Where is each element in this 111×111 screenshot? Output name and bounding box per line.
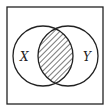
set-y-label: Y xyxy=(83,50,92,64)
set-x-label: X xyxy=(19,50,29,64)
venn-diagram: X Y xyxy=(0,0,111,111)
